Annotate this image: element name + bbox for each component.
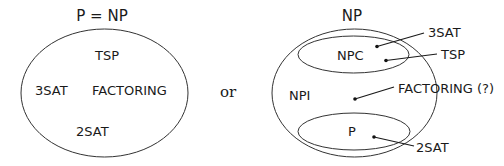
pointer-line-factoring <box>355 87 394 99</box>
pointer-label-3sat: 3SAT <box>428 25 461 40</box>
pointer-line-tsp <box>386 54 437 61</box>
pointer-label-factoring: FACTORING (?) <box>398 81 494 96</box>
right-title: NP <box>342 7 362 25</box>
or-connector: or <box>220 83 237 101</box>
pointer-label-2sat: 2SAT <box>416 140 449 155</box>
left-diagram-p-equals-np: P = NP TSP 3SAT FACTORING 2SAT <box>21 7 188 157</box>
left-label-tsp: TSP <box>94 48 119 63</box>
right-diagram-np: NP NPC NPI P 3SAT TSP FACTORING (?) 2SAT <box>272 7 494 157</box>
region-label-p: P <box>348 124 356 139</box>
left-label-2sat: 2SAT <box>76 124 109 139</box>
pointer-label-tsp: TSP <box>440 47 465 62</box>
left-label-3sat: 3SAT <box>35 83 68 98</box>
left-label-factoring: FACTORING <box>92 83 167 98</box>
region-label-npi: NPI <box>289 88 310 103</box>
complexity-diagram: P = NP TSP 3SAT FACTORING 2SAT or NP NPC… <box>0 0 504 166</box>
left-title: P = NP <box>76 7 127 25</box>
region-label-npc: NPC <box>337 48 364 63</box>
